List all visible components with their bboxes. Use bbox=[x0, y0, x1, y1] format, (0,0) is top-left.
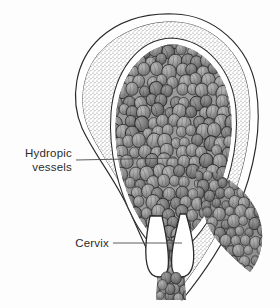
uterus-hydatidiform-mole-diagram: Hydropic vessels Cervix bbox=[0, 0, 280, 308]
hydropic-vessels-line2: vessels bbox=[32, 161, 72, 173]
illustration-root: Hydropic vessels Cervix bbox=[0, 0, 280, 308]
cervix-label: Cervix bbox=[75, 237, 109, 249]
hydropic-vessels-line1: Hydropic bbox=[25, 147, 72, 159]
